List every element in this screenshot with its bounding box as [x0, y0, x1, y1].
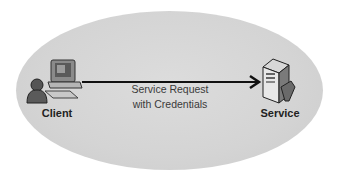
client-label: Client — [32, 106, 82, 121]
service-label: Service — [254, 106, 306, 121]
edge-label-line2: with Credentials — [120, 97, 220, 112]
edge-label-line1: Service Request — [120, 82, 220, 97]
edge-label: Service Request with Credentials — [120, 82, 220, 112]
diagram-canvas: Client Service Service Request with Cred… — [0, 0, 339, 178]
server-icon — [259, 57, 299, 107]
client-computer-user-icon — [24, 58, 86, 106]
